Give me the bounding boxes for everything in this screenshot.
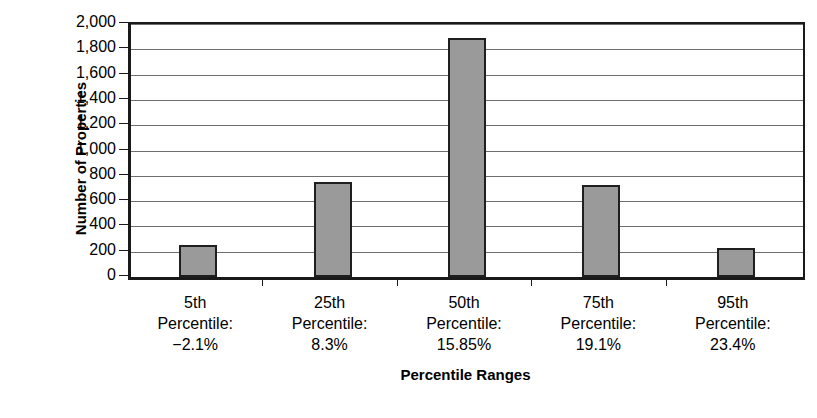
- x-axis-tick-labels: 5thPercentile:−2.1%25thPercentile:8.3%50…: [128, 292, 803, 362]
- y-axis-tick-label: 600: [38, 191, 116, 207]
- bar: [448, 38, 486, 277]
- y-axis-tick-label: 200: [38, 242, 116, 258]
- x-axis-category-label-line-3: 19.1%: [531, 334, 665, 355]
- x-axis-category-label: 50thPercentile:15.85%: [397, 292, 531, 355]
- x-axis-tick: [666, 278, 667, 286]
- x-axis-category-label-line-1: 25th: [262, 292, 396, 313]
- y-axis-tick-label: 800: [38, 166, 116, 182]
- y-axis-tick-label: 400: [38, 216, 116, 232]
- x-axis-tick: [397, 278, 398, 286]
- x-axis-category-label-line-1: 95th: [666, 292, 800, 313]
- y-axis-tick-labels: 02004006008001,0001,2001,4001,6001,8002,…: [38, 15, 116, 283]
- x-axis-ticks: [128, 278, 803, 287]
- y-axis-tick: [119, 149, 128, 150]
- x-axis-category-label-line-3: 23.4%: [666, 334, 800, 355]
- y-axis-tick: [119, 224, 128, 225]
- x-axis-category-label-line-3: −2.1%: [128, 334, 262, 355]
- y-axis-tick: [119, 47, 128, 48]
- bar: [717, 248, 755, 277]
- y-axis-tick: [119, 123, 128, 124]
- x-axis-category-label-line-3: 15.85%: [397, 334, 531, 355]
- y-axis-tick-label: 1,400: [38, 90, 116, 106]
- y-axis-tick-label: 1,000: [38, 141, 116, 157]
- x-axis-category-label: 25thPercentile:8.3%: [262, 292, 396, 355]
- y-axis-tick-label: 1,200: [38, 115, 116, 131]
- x-axis-category-label-line-2: Percentile:: [397, 313, 531, 334]
- y-axis-tick-label: 2,000: [38, 14, 116, 30]
- x-axis-category-label-line-2: Percentile:: [531, 313, 665, 334]
- y-axis-tick: [119, 98, 128, 99]
- x-axis-category-label-line-1: 5th: [128, 292, 262, 313]
- bar: [179, 245, 217, 277]
- bar: [582, 185, 620, 277]
- y-axis-tick-label: 0: [38, 267, 116, 283]
- y-axis-tick-label: 1,800: [38, 39, 116, 55]
- x-axis-tick: [531, 278, 532, 286]
- plot-area: [128, 22, 805, 280]
- x-axis-category-label-line-2: Percentile:: [262, 313, 396, 334]
- x-axis-category-label: 5thPercentile:−2.1%: [128, 292, 262, 355]
- bar-chart-figure: Number of Properties 02004006008001,0001…: [0, 0, 817, 418]
- y-axis-tick-label: 1,600: [38, 65, 116, 81]
- x-axis-category-label-line-1: 75th: [531, 292, 665, 313]
- y-axis-tick: [119, 22, 128, 23]
- x-axis-tick: [262, 278, 263, 286]
- bar-series: [131, 24, 803, 277]
- x-axis-category-label-line-1: 50th: [397, 292, 531, 313]
- x-axis-category-label-line-3: 8.3%: [262, 334, 396, 355]
- x-axis-category-label: 95thPercentile:23.4%: [666, 292, 800, 355]
- x-axis-category-label: 75thPercentile:19.1%: [531, 292, 665, 355]
- x-axis-title: Percentile Ranges: [128, 366, 803, 383]
- y-axis-tick: [119, 250, 128, 251]
- x-axis-category-label-line-2: Percentile:: [666, 313, 800, 334]
- y-axis-tick: [119, 73, 128, 74]
- x-axis-category-label-line-2: Percentile:: [128, 313, 262, 334]
- y-axis-tick: [119, 174, 128, 175]
- bar: [314, 182, 352, 278]
- y-axis-tick: [119, 275, 128, 276]
- y-axis-tick: [119, 199, 128, 200]
